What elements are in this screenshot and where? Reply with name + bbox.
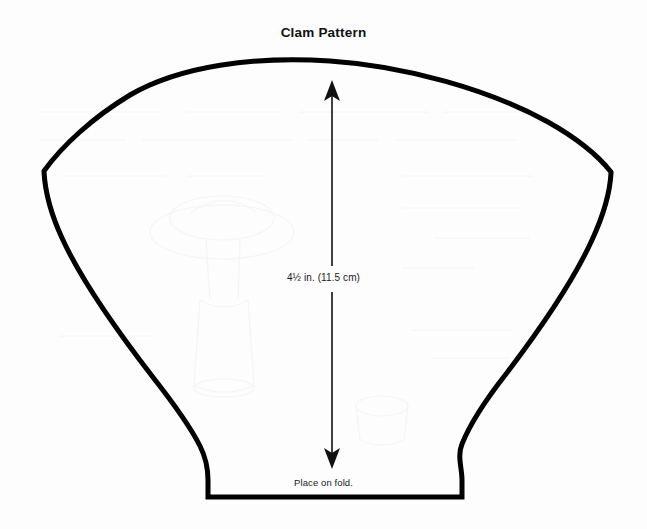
clam-pattern-drawing (0, 0, 647, 529)
page-title: Clam Pattern (0, 25, 647, 40)
place-on-fold-label: Place on fold. (0, 477, 647, 488)
pattern-page: Clam Pattern 4½ in. (11.5 cm) Place on f… (0, 0, 647, 529)
height-measurement-label: 4½ in. (11.5 cm) (0, 272, 647, 283)
